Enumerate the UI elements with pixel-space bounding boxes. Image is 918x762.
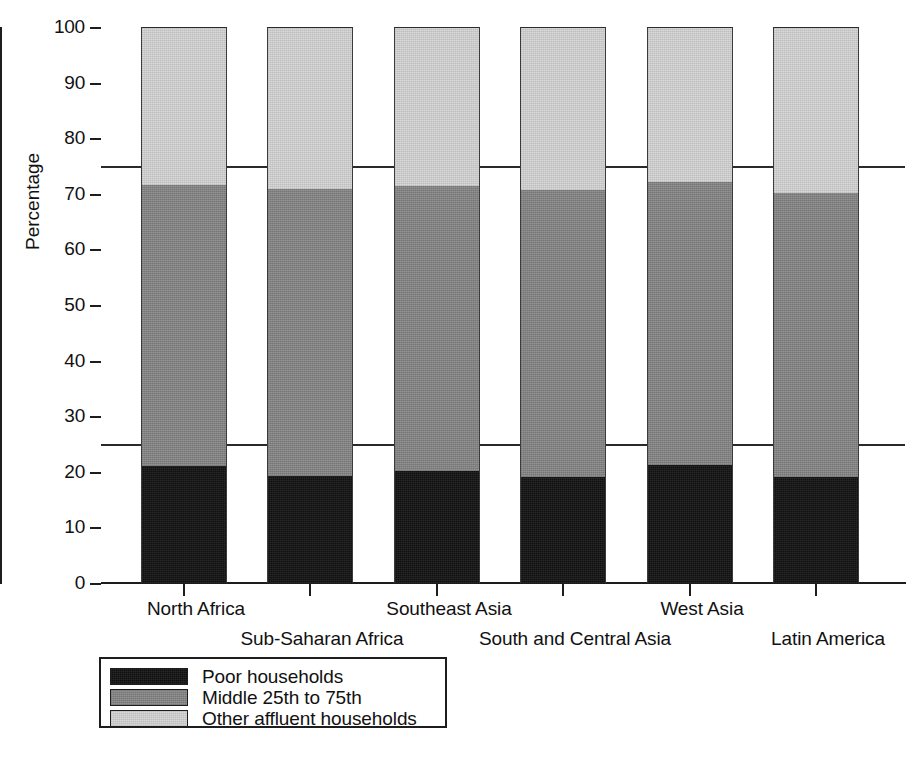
chart-page: Percentage 1009080706050403020100 North …: [0, 0, 918, 762]
stacked-bar: [520, 27, 606, 583]
affluent-segment: [267, 27, 353, 189]
stacked-bar: [141, 27, 227, 583]
y-tick-mark: [90, 249, 101, 251]
x-tick-mark: [309, 584, 311, 596]
poor-segment: [773, 477, 859, 583]
middle-segment: [520, 190, 606, 477]
legend-item: Middle 25th to 75th: [110, 688, 362, 707]
legend-label: Middle 25th to 75th: [202, 688, 362, 707]
y-tick-mark: [90, 527, 101, 529]
poor-swatch: [110, 668, 188, 685]
poor-segment: [520, 477, 606, 583]
middle-segment: [141, 185, 227, 466]
legend-label: Other affluent households: [202, 709, 417, 728]
x-axis-label: North Africa: [147, 598, 245, 620]
legend-item: Other affluent households: [110, 709, 417, 728]
x-tick-mark: [436, 584, 438, 596]
x-tick-mark: [562, 584, 564, 596]
x-tick-mark: [689, 584, 691, 596]
y-tick-label: 30: [64, 405, 85, 427]
x-tick-mark: [815, 584, 817, 596]
y-tick-mark: [90, 361, 101, 363]
stacked-bar: [773, 27, 859, 583]
plot-area: [101, 27, 905, 583]
legend-item: Poor households: [110, 667, 343, 686]
middle-segment: [267, 189, 353, 476]
x-axis-label: Latin America: [771, 628, 885, 650]
middle-segment: [773, 193, 859, 477]
middle-segment: [647, 182, 733, 464]
x-axis-label: Southeast Asia: [386, 598, 511, 620]
y-tick-label: 70: [64, 183, 85, 205]
poor-segment: [267, 476, 353, 583]
y-tick-mark: [90, 416, 101, 418]
middle-segment: [394, 186, 480, 471]
x-axis-label: West Asia: [660, 598, 743, 620]
affluent-segment: [520, 27, 606, 190]
affluent-segment: [773, 27, 859, 193]
y-tick-mark: [90, 305, 101, 307]
y-axis-line: [0, 27, 2, 584]
x-tick-mark: [183, 584, 185, 596]
y-tick-label: 0: [75, 572, 85, 594]
poor-segment: [141, 466, 227, 583]
y-tick-label: 90: [64, 72, 85, 94]
y-tick-mark: [90, 83, 101, 85]
y-tick-mark: [90, 138, 101, 140]
affluent-segment: [647, 27, 733, 182]
y-tick-label: 20: [64, 461, 85, 483]
affluent-segment: [141, 27, 227, 185]
poor-segment: [394, 471, 480, 583]
y-tick-label: 100: [54, 16, 85, 38]
y-tick-mark: [90, 472, 101, 474]
poor-segment: [647, 465, 733, 583]
y-tick-mark: [90, 194, 101, 196]
y-tick-mark: [90, 27, 101, 29]
y-tick-label: 60: [64, 238, 85, 260]
affluent-segment: [394, 27, 480, 186]
middle-swatch: [110, 689, 188, 706]
x-axis-label: Sub-Saharan Africa: [241, 628, 404, 650]
legend-label: Poor households: [202, 667, 343, 686]
chart-legend: Poor householdsMiddle 25th to 75thOther …: [99, 657, 447, 728]
x-axis-label: South and Central Asia: [479, 628, 671, 650]
y-tick-label: 80: [64, 127, 85, 149]
y-tick-label: 50: [64, 294, 85, 316]
affluent-swatch: [110, 710, 188, 727]
y-tick-label: 40: [64, 350, 85, 372]
stacked-bar: [394, 27, 480, 583]
y-tick-mark: [90, 583, 101, 585]
stacked-bar: [267, 27, 353, 583]
y-tick-label: 10: [64, 516, 85, 538]
stacked-bar: [647, 27, 733, 583]
y-axis-title: Percentage: [22, 153, 44, 250]
